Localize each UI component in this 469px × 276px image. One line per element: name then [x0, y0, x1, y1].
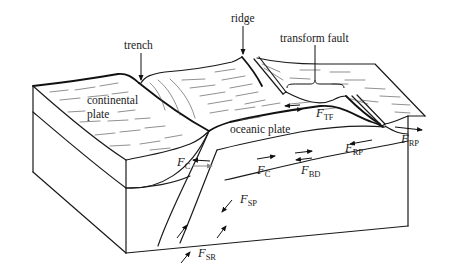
- label-continental-plate-line2: plate: [87, 109, 109, 121]
- force-subscript: C: [185, 161, 191, 171]
- label-ridge: ridge: [231, 13, 255, 25]
- force-subscript: BD: [309, 169, 321, 179]
- force-symbol: F: [345, 141, 353, 155]
- force-subscript: RP: [353, 147, 363, 157]
- force-symbol: F: [198, 246, 206, 260]
- force-subscript: TF: [324, 112, 334, 122]
- force-symbol: F: [316, 106, 324, 120]
- label-trench: trench: [124, 40, 153, 52]
- force-subscript: RP: [409, 138, 419, 148]
- force-f-rp-base: FRP: [345, 142, 363, 155]
- force-subscript: SR: [206, 252, 216, 262]
- force-subscript: SP: [248, 198, 257, 208]
- force-f-sr: FSR: [198, 247, 216, 260]
- force-symbol: F: [301, 163, 309, 177]
- plate-tectonics-block-diagram: [0, 0, 469, 276]
- force-f-c-right: FC: [257, 164, 270, 177]
- force-symbol: F: [401, 132, 409, 146]
- label-continental-plate-line1: continental: [87, 95, 138, 107]
- force-f-rp-ridge: FRP: [401, 133, 419, 146]
- force-symbol: F: [177, 155, 185, 169]
- label-transform-fault: transform fault: [280, 33, 349, 45]
- force-f-c-left: FC: [177, 156, 190, 169]
- label-oceanic-plate: oceanic plate: [230, 124, 290, 136]
- force-f-tf: FTF: [316, 107, 334, 120]
- force-f-bd: FBD: [301, 164, 320, 177]
- force-symbol: F: [257, 163, 265, 177]
- force-symbol: F: [240, 192, 248, 206]
- top-surface: [33, 57, 425, 246]
- force-f-sp: FSP: [240, 193, 257, 206]
- force-subscript: C: [265, 169, 271, 179]
